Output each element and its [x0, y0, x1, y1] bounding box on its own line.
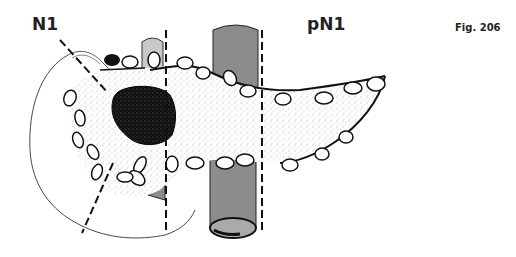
- pancreas-illustration: [0, 0, 516, 257]
- dark-node: [104, 54, 120, 66]
